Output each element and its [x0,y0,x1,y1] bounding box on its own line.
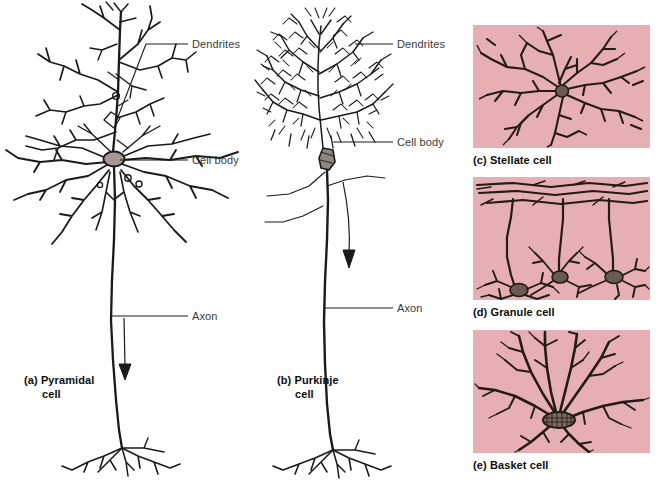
purkinje-cell-body-label: Cell body [397,136,444,149]
purkinje-caption-line1: (b) Purkinje [277,374,339,387]
basket-caption: (e) Basket cell [473,459,548,472]
purkinje-dendrites-label: Dendrites [397,38,445,51]
pyramidal-axon-label: Axon [192,310,217,323]
granule-caption: (d) Granule cell [473,306,555,319]
purkinje-axon-label: Axon [397,302,422,315]
pyramidal-caption-line2: cell [42,388,61,401]
pyramidal-dendrites-label: Dendrites [192,38,240,51]
stellate-cell-panel [473,25,650,148]
pyramidal-cell-drawing [0,0,260,486]
granule-cell-panel [473,177,650,300]
pyramidal-cell-body-label: Cell body [192,154,239,167]
purkinje-axon-direction-arrow [343,182,355,268]
pyramidal-axon-direction-arrow [119,318,131,380]
pyramidal-caption-line1: (a) Pyramidal [24,374,94,387]
purkinje-cell-drawing [245,0,460,486]
purkinje-caption-line2: cell [295,388,314,401]
pyramidal-dendrites-leader [116,44,146,122]
neuron-morphology-figure: Dendrites Cell body Axon (a) Pyramidal c… [0,0,660,486]
stellate-caption: (c) Stellate cell [473,154,552,167]
basket-cell-panel [473,330,650,453]
